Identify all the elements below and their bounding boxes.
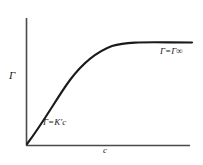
- isotherm-curve: [27, 42, 192, 144]
- y-axis-label: Γ: [9, 70, 15, 81]
- x-axis-label: c: [103, 146, 107, 155]
- annotation-saturation-plateau: Γ=Γ∞: [160, 47, 183, 56]
- plot-area: [0, 0, 203, 165]
- isotherm-figure: Γ c Γ=K′c Γ=Γ∞: [0, 0, 203, 165]
- annotation-linear-regime: Γ=K′c: [43, 118, 66, 127]
